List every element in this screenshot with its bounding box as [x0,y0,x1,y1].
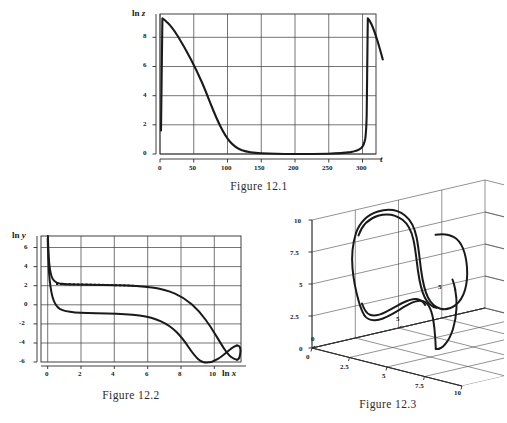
floor-grid [312,308,507,386]
figure-12-1-svg [128,4,390,174]
y-tick-4: 4 [24,262,28,270]
y-tick-minus-4: -4 [19,338,25,346]
z-tick-0: 0 [299,345,303,353]
z-tick-10: 10 [294,217,302,225]
figure-12-1-caption: Figure 12.1 [128,180,390,192]
y-tick-6: 6 [24,243,28,251]
x-tick-4: 4 [111,370,115,378]
figure-12-2-plot: ln y ln x 6 4 2 0 -2 -4 -6 0 2 4 6 8 10 [6,228,256,383]
y-tick-2: 2 [24,281,28,289]
x-tick-0: 0 [306,353,310,361]
y-tick-8: 8 [143,32,147,40]
z-axis [309,220,313,348]
x-tick-300: 300 [356,164,367,172]
z-tick-7-5: 7.5 [290,249,299,257]
figure-12-3-caption: Figure 12.3 [272,398,504,410]
z-tick-2-5: 2.5 [290,313,299,321]
y-axis [34,236,38,362]
x-axis [41,366,246,369]
x-axis [160,159,382,163]
grid-vertical [160,14,363,154]
curve-upper-branch [48,236,237,360]
x-tick-150: 150 [254,164,265,172]
x-tick-6: 6 [145,370,149,378]
y-tick-2: 2 [143,120,147,128]
figure-12-2-y-axis-label: ln y [12,230,26,240]
curve-lower-branch [48,239,237,363]
figure-12-1-x-axis-label: t [380,154,383,164]
x-tick-200: 200 [288,164,299,172]
orbit-curve [352,210,467,349]
y-tick-0: 0 [311,335,315,343]
figure-12-2-caption: Figure 12.2 [6,389,256,401]
y-tick-minus-2: -2 [19,319,25,327]
y-tick-minus-6: -6 [19,357,25,365]
x-axis [311,348,462,390]
x-tick-8: 8 [178,370,182,378]
curve-right-closure [237,346,240,360]
figure-12-1: ln z t 0 2 4 6 8 0 50 100 150 200 250 30… [128,4,390,192]
y-tick-6: 6 [143,61,147,69]
x-tick-0: 0 [158,164,162,172]
y-tick-5: 5 [396,315,400,323]
x-tick-5: 5 [382,372,386,380]
figure-12-2: ln y ln x 6 4 2 0 -2 -4 -6 0 2 4 6 8 10 … [6,228,256,401]
figure-12-2-svg [6,228,256,383]
z-tick-5: 5 [299,281,303,289]
figure-12-3-plot: 10 7.5 5 2.5 0 0 2.5 5 7.5 10 0 5 5 [272,200,504,396]
y-tick-0: 0 [24,300,28,308]
x-tick-100: 100 [221,164,232,172]
x-tick-250: 250 [322,164,333,172]
x-tick-10: 10 [209,370,216,378]
x-tick-10: 10 [454,389,462,397]
y-axis-tick-5-upper: 5 [438,283,442,291]
x-tick-50: 50 [189,164,196,172]
y-tick-0: 0 [143,149,147,157]
y-tick-4: 4 [143,91,147,99]
x-tick-2-5: 2.5 [340,363,349,371]
plot-frame [160,14,376,154]
figure-12-1-plot: ln z t 0 2 4 6 8 0 50 100 150 200 250 30… [128,4,390,174]
y-axis [153,14,157,154]
x-tick-0: 0 [45,370,49,378]
x-tick-7-5: 7.5 [415,382,424,390]
grid-horizontal [160,37,376,154]
figure-12-3: 10 7.5 5 2.5 0 0 2.5 5 7.5 10 0 5 5 Figu… [272,200,504,410]
figure-12-1-y-axis-label: ln z [132,8,145,18]
figure-12-2-x-axis-label: ln x [222,368,236,378]
x-tick-2: 2 [78,370,82,378]
figure-12-3-svg: 10 7.5 5 2.5 0 0 2.5 5 7.5 10 0 5 5 [272,200,504,396]
curve-ln-z [161,18,383,154]
